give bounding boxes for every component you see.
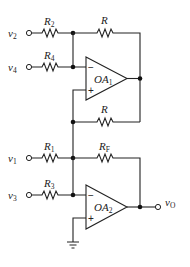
v4-label: v4 (8, 61, 17, 75)
oa2-minus: − (88, 190, 94, 201)
resistor-r4 (32, 63, 86, 71)
vo-label: vO (165, 196, 176, 210)
r3-label: R3 (43, 177, 55, 191)
vo-terminal (155, 204, 160, 209)
rf-label: RF (98, 140, 110, 154)
r-top-label: R (100, 14, 108, 26)
junction-node (71, 193, 76, 198)
v2-terminal (26, 30, 31, 35)
resistor-r3 (32, 191, 86, 199)
resistor-r1 (32, 154, 73, 162)
r1-label: R1 (43, 140, 55, 154)
wire (73, 218, 86, 242)
oa1-output-node (138, 76, 143, 81)
oa1-plus: + (88, 85, 94, 96)
junction-node (71, 120, 76, 125)
resistor-r2 (32, 29, 73, 37)
r4-label: R4 (43, 49, 55, 63)
oa1-label: OA1 (94, 73, 113, 87)
v1-label: v1 (8, 152, 17, 166)
resistor-rf (73, 154, 140, 207)
v1-terminal (26, 155, 31, 160)
ground-icon (67, 242, 79, 248)
v2-label: v2 (8, 27, 17, 41)
r-bottom-label: R (100, 103, 108, 115)
junction-node (71, 65, 76, 70)
v3-label: v3 (8, 189, 17, 203)
resistor-r-bottom (73, 118, 140, 126)
circuit-diagram: v2 R2 R v4 R4 − + OA1 R v1 R1 RF v3 R3 −… (0, 0, 190, 267)
v4-terminal (26, 64, 31, 69)
oa2-plus: + (88, 213, 94, 224)
oa1-minus: − (88, 62, 94, 73)
wire (73, 90, 86, 158)
oa2-label: OA2 (94, 201, 113, 215)
r2-label: R2 (43, 15, 55, 29)
v3-terminal (26, 192, 31, 197)
oa2-output-node (138, 205, 143, 210)
